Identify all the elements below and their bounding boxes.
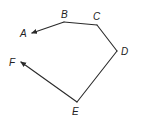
label-point-b: B bbox=[61, 9, 68, 20]
label-point-a: A bbox=[19, 28, 27, 39]
label-point-f: F bbox=[9, 57, 16, 68]
path-segments bbox=[21, 22, 117, 102]
segment-b-a-arrow bbox=[32, 22, 64, 33]
segment-d-e bbox=[77, 51, 117, 102]
label-point-e: E bbox=[72, 106, 79, 117]
point-labels: ABCDEF bbox=[9, 9, 128, 117]
segment-c-d bbox=[97, 25, 117, 51]
segment-b-c bbox=[64, 22, 97, 25]
label-point-d: D bbox=[121, 46, 128, 57]
path-diagram: ABCDEF bbox=[0, 0, 159, 117]
label-point-c: C bbox=[93, 11, 101, 22]
segment-e-f-arrow bbox=[21, 62, 77, 102]
